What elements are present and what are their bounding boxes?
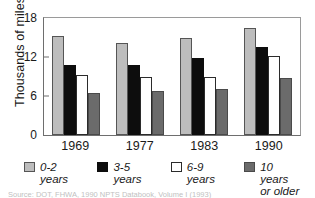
bar-1990-3-5-years — [256, 47, 268, 135]
bar-1983-3-5-years — [192, 58, 204, 135]
bar-1983-6-9-years — [204, 77, 216, 136]
bar-1969-6-9-years — [76, 75, 88, 135]
legend-swatch-icon-6-9-years — [171, 162, 182, 172]
bar-1990-10-years-or-older — [280, 78, 292, 135]
legend-label-0-2-years: 0-2 years — [40, 161, 84, 185]
bar-1990-6-9-years — [268, 56, 280, 135]
source-note: Source: DOT, FHWA, 1990 NPTS Databook, V… — [8, 190, 308, 198]
legend-label-3-5-years: 3-5 years — [113, 161, 157, 185]
bar-1977-6-9-years — [140, 77, 152, 136]
x-axis-tick-labels: 1969 1977 1983 1990 — [43, 139, 301, 155]
bar-groups — [44, 18, 300, 135]
legend-item-6-9-years: 6-9 years — [171, 161, 231, 185]
y-tick-label-18: 18 — [24, 11, 44, 25]
x-tick-label-1990: 1990 — [241, 139, 297, 155]
y-tick-label-6: 6 — [30, 89, 44, 103]
bar-group-1983 — [180, 18, 228, 135]
bar-1969-3-5-years — [64, 65, 76, 135]
bar-1969-0-2-years — [52, 36, 64, 135]
bar-1983-0-2-years — [180, 38, 192, 136]
bar-1977-10-years-or-older — [152, 91, 164, 135]
bar-group-1977 — [116, 18, 164, 135]
bar-1977-0-2-years — [116, 43, 128, 135]
legend-swatch-icon-0-2-years — [24, 162, 35, 172]
bar-group-1990 — [244, 18, 292, 135]
y-tick-label-12: 12 — [24, 50, 44, 64]
bar-chart-figure: Thousands of miles 18 12 6 0 — [0, 0, 315, 198]
bar-1969-10-years-or-older — [88, 93, 100, 135]
bar-1990-0-2-years — [244, 28, 256, 135]
legend-item-3-5-years: 3-5 years — [97, 161, 157, 185]
x-tick-label-1983: 1983 — [176, 139, 232, 155]
bar-1983-10-years-or-older — [216, 89, 228, 135]
legend-label-6-9-years: 6-9 years — [187, 161, 231, 185]
legend-item-0-2-years: 0-2 years — [24, 161, 84, 185]
legend-swatch-icon-10-years-or-older — [244, 162, 255, 172]
x-tick-label-1977: 1977 — [112, 139, 168, 155]
y-tick-label-0: 0 — [30, 128, 44, 142]
bar-group-1969 — [52, 18, 100, 135]
legend-swatch-icon-3-5-years — [97, 162, 108, 172]
plot-area: 18 12 6 0 — [43, 17, 301, 136]
bar-1977-3-5-years — [128, 65, 140, 135]
x-tick-label-1969: 1969 — [47, 139, 103, 155]
